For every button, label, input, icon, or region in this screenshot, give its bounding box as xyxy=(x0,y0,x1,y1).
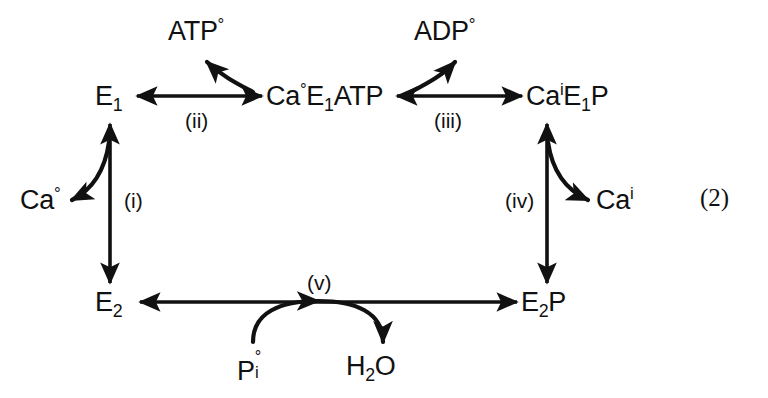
ligand-adp-out: ADP° xyxy=(414,18,475,45)
node-e2: E2 xyxy=(95,289,122,316)
node-ca-o-e1-atp: Ca°E1ATP xyxy=(266,83,383,110)
figure-canvas: E1 Ca°E1ATP CaiE1P E2 E2P ATP° ADP° Ca° … xyxy=(0,0,768,398)
curve-adp-out xyxy=(411,62,455,92)
step-label-ii: (ii) xyxy=(185,110,208,131)
curve-pi-out xyxy=(253,301,318,342)
curve-ca-in xyxy=(548,142,588,200)
ligand-atp-out: ATP° xyxy=(168,18,224,45)
ligand-ca-out: Ca° xyxy=(20,187,60,214)
curve-ca-out xyxy=(72,142,109,200)
node-e2p: E2P xyxy=(521,289,566,316)
equation-number: (2) xyxy=(700,185,729,210)
ligand-water: H2O xyxy=(346,353,396,380)
step-label-iv: (iv) xyxy=(505,190,534,211)
step-label-v: (v) xyxy=(307,272,332,293)
curve-water-out xyxy=(318,301,383,342)
step-label-iii: (iii) xyxy=(434,110,462,131)
ligand-ca-in: Cai xyxy=(596,187,633,214)
curve-atp-out xyxy=(207,62,253,92)
node-ca-i-e1-p: CaiE1P xyxy=(526,83,608,110)
ligand-pi-out: P°i xyxy=(237,353,269,385)
node-e1: E1 xyxy=(95,83,122,110)
step-label-i: (i) xyxy=(124,190,143,211)
reaction-cycle-arrows xyxy=(0,0,768,398)
